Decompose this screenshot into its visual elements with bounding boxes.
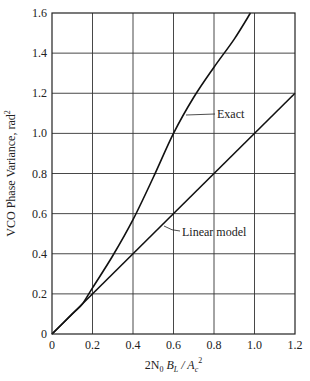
exact-label: Exact: [217, 107, 245, 121]
linear-model-leader-line: [164, 226, 180, 231]
x-tick-label: 0.8: [207, 338, 222, 352]
x-tick-label: 0.6: [166, 338, 181, 352]
y-tick-label: 1.0: [32, 126, 47, 140]
y-tick-label: 1.4: [32, 46, 47, 60]
y-tick-label: 0.6: [32, 207, 47, 221]
y-axis-label: VCO Phase Variance, rad2: [3, 110, 18, 236]
x-axis-ticks: 00.20.40.60.81.01.2: [49, 338, 303, 352]
phase-variance-chart: 00.20.40.60.81.01.2 00.20.40.60.81.01.21…: [0, 0, 310, 381]
grid: [52, 13, 295, 334]
y-tick-label: 0.2: [32, 287, 47, 301]
exact-leader-line: [186, 114, 215, 115]
x-tick-label: 0.4: [126, 338, 141, 352]
y-axis-ticks: 00.20.40.60.81.01.21.41.6: [32, 6, 47, 341]
linear-model-label: Linear model: [182, 225, 247, 239]
x-tick-label: 1.2: [288, 338, 303, 352]
x-axis-label: 2N0 BL / Ac2: [145, 356, 202, 374]
x-tick-label: 1.0: [247, 338, 262, 352]
y-tick-label: 1.2: [32, 86, 47, 100]
y-tick-label: 0.4: [32, 247, 47, 261]
x-tick-label: 0.2: [85, 338, 100, 352]
y-tick-label: 0: [41, 327, 47, 341]
y-tick-label: 1.6: [32, 6, 47, 20]
y-tick-label: 0.8: [32, 167, 47, 181]
x-tick-label: 0: [49, 338, 55, 352]
